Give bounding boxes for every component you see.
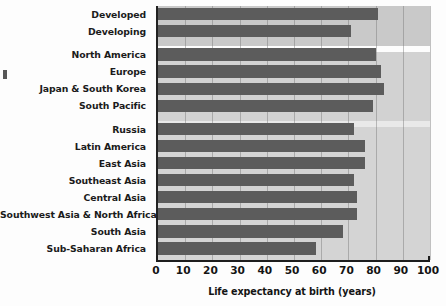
bar-row: [158, 206, 430, 223]
category-label-latin-america: Latin America: [0, 138, 152, 155]
plot-area: [156, 6, 430, 260]
bar-row: [158, 240, 430, 257]
x-tick-label-100: 100: [411, 264, 445, 276]
bar-southeast-asia: [158, 174, 354, 186]
category-label-developed: Developed: [0, 6, 152, 23]
bar-row: [158, 155, 430, 172]
bar-southwest-asia-north-africa: [158, 208, 357, 220]
category-label-east-asia: East Asia: [0, 155, 152, 172]
bar-series: [158, 6, 430, 260]
life-expectancy-bar-chart: Developed Developing North America Europ…: [0, 0, 446, 306]
bar-south-pacific: [158, 100, 373, 112]
x-axis-cap-right: [428, 256, 430, 262]
bar-row: [158, 23, 430, 40]
bar-row: [158, 189, 430, 206]
bar-latin-america: [158, 140, 365, 152]
bar-row: [158, 172, 430, 189]
bar-row: [158, 121, 430, 138]
bar-row: [158, 138, 430, 155]
bar-east-asia: [158, 157, 365, 169]
bar-row: [158, 63, 430, 80]
bar-russia: [158, 123, 354, 135]
category-label-north-america: North America: [0, 46, 152, 63]
category-label-developing: Developing: [0, 23, 152, 40]
category-label-russia: Russia: [0, 121, 152, 138]
bar-developed: [158, 8, 378, 20]
category-label-europe: Europe: [0, 63, 152, 80]
bar-row: [158, 223, 430, 240]
bar-row: [158, 46, 430, 63]
gridline-100: [430, 6, 431, 260]
category-label-south-asia: South Asia: [0, 223, 152, 240]
x-axis-title: Life expectancy at birth (years): [156, 286, 428, 297]
x-axis-cap-left: [156, 256, 158, 262]
bar-north-america: [158, 48, 376, 60]
category-label-japan-south-korea: Japan & South Korea: [0, 80, 152, 97]
bar-row: [158, 6, 430, 23]
bar-south-asia: [158, 225, 343, 237]
bar-japan-south-korea: [158, 83, 384, 95]
bar-row: [158, 97, 430, 114]
bar-central-asia: [158, 191, 357, 203]
bar-europe: [158, 65, 381, 77]
category-label-southwest-asia-north-africa: Southwest Asia & North Africa: [0, 206, 152, 223]
x-axis-tick-labels: 0102030405060708090100: [0, 264, 446, 280]
category-label-central-asia: Central Asia: [0, 189, 152, 206]
bar-row: [158, 80, 430, 97]
category-label-sub-saharan-africa: Sub-Saharan Africa: [0, 240, 152, 257]
bar-developing: [158, 25, 351, 37]
category-label-southeast-asia: Southeast Asia: [0, 172, 152, 189]
category-axis-labels: Developed Developing North America Europ…: [0, 6, 152, 257]
category-label-south-pacific: South Pacific: [0, 97, 152, 114]
x-axis-line: [156, 260, 430, 262]
bar-sub-saharan-africa: [158, 242, 316, 254]
